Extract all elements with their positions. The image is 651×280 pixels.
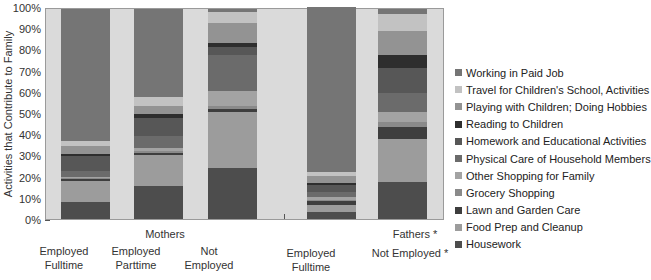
- legend-label: Playing with Children; Doing Hobbies: [466, 101, 647, 113]
- bar-4: [378, 9, 427, 219]
- y-tick-label: 0%: [25, 214, 41, 226]
- bar-segment: [134, 97, 183, 105]
- bar-segment: [378, 68, 427, 93]
- y-tick-label: 70%: [19, 66, 41, 78]
- y-tick-label: 60%: [19, 87, 41, 99]
- bar-segment: [61, 171, 110, 178]
- legend-item: Reading to Children: [455, 116, 651, 133]
- legend-label: Lawn and Garden Care: [466, 204, 580, 216]
- legend-swatch-icon: [455, 172, 462, 179]
- category-label-line: [365, 260, 455, 274]
- bar-segment: [378, 112, 427, 123]
- bar-segment: [378, 127, 427, 140]
- bar-segment: [378, 139, 427, 182]
- bar-segment: [134, 106, 183, 114]
- y-tick-label: 10%: [19, 193, 41, 205]
- bar-segment: [61, 181, 110, 202]
- legend-swatch-icon: [455, 69, 462, 76]
- y-tick-label: 20%: [19, 172, 41, 184]
- bar-segment: [378, 182, 427, 219]
- y-tick-label: 30%: [19, 150, 41, 162]
- legend-swatch-icon: [455, 86, 462, 93]
- y-tick-label: 80%: [19, 44, 41, 56]
- plot-area: [45, 8, 444, 220]
- bar-segment: [307, 212, 356, 219]
- legend-swatch-icon: [455, 189, 462, 196]
- legend-swatch-icon: [455, 155, 462, 162]
- legend-swatch-icon: [455, 138, 462, 145]
- bar-segment: [307, 7, 356, 172]
- bar-segment: [307, 176, 356, 184]
- bar-segment: [208, 47, 257, 55]
- legend-item: Grocery Shopping: [455, 184, 651, 201]
- bar-segment: [307, 185, 356, 192]
- y-tick-mark: [45, 220, 50, 221]
- bar-segment: [208, 55, 257, 91]
- legend-swatch-icon: [455, 103, 462, 110]
- legend-item: Housework: [455, 236, 651, 253]
- legend-item: Travel for Children's School, Activities: [455, 81, 651, 98]
- y-axis-title-wrap: Activities that Contribute to Family: [0, 8, 16, 220]
- legend-label: Other Shopping for Family: [466, 170, 594, 182]
- legend-item: Lawn and Garden Care: [455, 202, 651, 219]
- bar-segment: [61, 9, 110, 141]
- bar-segment: [134, 118, 183, 136]
- legend-item: Other Shopping for Family: [455, 167, 651, 184]
- bar-2: [208, 9, 257, 219]
- bar-segment: [134, 136, 183, 148]
- legend-item: Physical Care of Household Members: [455, 150, 651, 167]
- bar-segment: [208, 91, 257, 106]
- legend-swatch-icon: [455, 121, 462, 128]
- bar-segment: [134, 9, 183, 97]
- bar-segment: [134, 186, 183, 219]
- category-label-line: Employed: [164, 258, 254, 272]
- category-label-line: Not Employed *: [365, 246, 455, 260]
- y-tick-label: 50%: [19, 108, 41, 120]
- legend-item: Working in Paid Job: [455, 64, 651, 81]
- legend-label: Housework: [466, 238, 521, 250]
- legend-label: Reading to Children: [466, 118, 563, 130]
- legend-swatch-icon: [455, 207, 462, 214]
- category-label: EmployedFulltime: [266, 246, 356, 274]
- group-label: Fathers *: [375, 228, 455, 240]
- bar-segment: [378, 55, 427, 68]
- legend-label: Working in Paid Job: [466, 67, 564, 79]
- y-axis-title: Activities that Contribute to Family: [2, 31, 14, 197]
- bar-segment: [208, 12, 257, 23]
- bar-segment: [61, 156, 110, 171]
- group-label: Mothers: [125, 228, 205, 240]
- legend-label: Food Prep and Cleanup: [466, 221, 583, 233]
- legend-item: Food Prep and Cleanup: [455, 219, 651, 236]
- bar-segment: [61, 202, 110, 219]
- legend-swatch-icon: [455, 241, 462, 248]
- y-tick-label: 100%: [13, 2, 41, 14]
- bar-segment: [208, 23, 257, 43]
- bar-segment: [378, 31, 427, 55]
- y-tick-label: 90%: [19, 23, 41, 35]
- category-label-line: Not: [164, 244, 254, 258]
- bar-0: [61, 9, 110, 219]
- legend-label: Travel for Children's School, Activities: [466, 84, 649, 96]
- legend-label: Homework and Educational Activities: [466, 135, 646, 147]
- legend-swatch-icon: [455, 224, 462, 231]
- bar-segment: [208, 112, 257, 168]
- bar-segment: [378, 93, 427, 112]
- bar-1: [134, 9, 183, 219]
- category-label: Not Employed *: [365, 246, 455, 274]
- category-label-line: Fulltime: [266, 260, 356, 274]
- category-label: NotEmployed: [164, 244, 254, 272]
- category-label-line: Employed: [266, 246, 356, 260]
- bar-3: [307, 7, 356, 219]
- legend-item: Playing with Children; Doing Hobbies: [455, 98, 651, 115]
- bar-segment: [307, 205, 356, 212]
- y-tick-label: 40%: [19, 129, 41, 141]
- bar-segment: [208, 168, 257, 219]
- stacked-bar-chart: Activities that Contribute to Family 0%1…: [0, 0, 651, 280]
- legend: Working in Paid JobTravel for Children's…: [455, 64, 651, 253]
- legend-label: Physical Care of Household Members: [466, 153, 651, 165]
- group-separator-tick: [284, 214, 285, 219]
- bar-segment: [61, 146, 110, 154]
- bar-segment: [134, 155, 183, 187]
- legend-label: Grocery Shopping: [466, 187, 555, 199]
- bar-segment: [378, 14, 427, 31]
